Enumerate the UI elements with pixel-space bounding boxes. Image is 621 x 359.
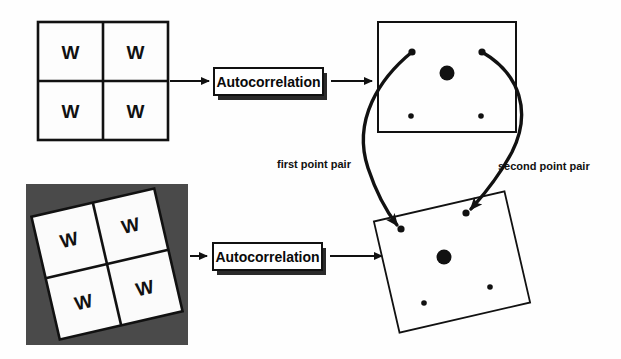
grid-cell-label: W bbox=[127, 42, 145, 63]
point-center bbox=[440, 66, 455, 81]
curve-second-point-pair bbox=[471, 52, 522, 209]
rotated-grid-group: W W W W bbox=[31, 188, 182, 339]
point-upper-right bbox=[462, 209, 469, 216]
diagram-svg: W W W W Autocorrelation bbox=[0, 0, 621, 359]
grid-cell-label: W bbox=[62, 101, 80, 122]
upright-w-grid: W W W W bbox=[38, 22, 168, 140]
point-upper-left bbox=[397, 225, 404, 232]
point-lower-right bbox=[478, 113, 484, 119]
first-point-pair-label: first point pair bbox=[277, 158, 352, 170]
rotated-panel-group bbox=[374, 191, 530, 332]
grid-cell-label: W bbox=[127, 101, 145, 122]
autocorrelation-box-bottom: Autocorrelation bbox=[213, 243, 326, 275]
autocorrelation-label: Autocorrelation bbox=[216, 74, 320, 90]
point-center bbox=[437, 250, 452, 265]
point-lower-left bbox=[408, 113, 414, 119]
point-lower-right bbox=[487, 284, 493, 290]
curve-first-point-pair bbox=[363, 52, 412, 225]
point-lower-left bbox=[421, 300, 427, 306]
result-panel-top bbox=[378, 22, 516, 132]
autocorrelation-box-top: Autocorrelation bbox=[214, 68, 327, 100]
rotated-w-grid: W W W W bbox=[26, 184, 188, 345]
autocorrelation-label: Autocorrelation bbox=[215, 249, 319, 265]
result-panel-bottom bbox=[374, 191, 530, 332]
figure-canvas: W W W W Autocorrelation bbox=[0, 0, 621, 359]
panel-border bbox=[374, 191, 530, 332]
second-point-pair-label: second point pair bbox=[498, 160, 590, 172]
grid-cell-label: W bbox=[62, 42, 80, 63]
